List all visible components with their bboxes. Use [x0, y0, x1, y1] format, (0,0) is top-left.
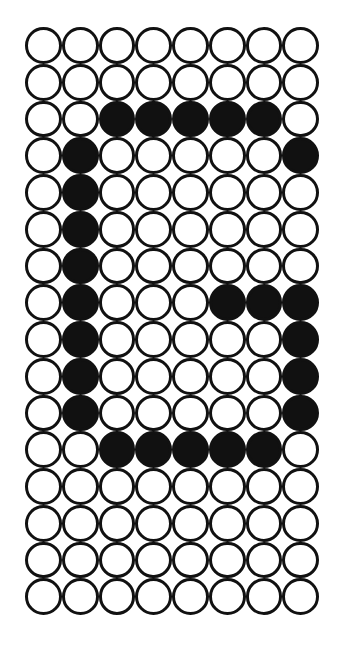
empty-bead[interactable] [62, 431, 99, 468]
filled-bead[interactable] [209, 284, 246, 321]
empty-bead[interactable] [282, 505, 319, 542]
empty-bead[interactable] [282, 64, 319, 101]
empty-bead[interactable] [25, 284, 62, 321]
empty-bead[interactable] [135, 505, 172, 542]
empty-bead[interactable] [135, 542, 172, 579]
empty-bead[interactable] [135, 468, 172, 505]
empty-bead[interactable] [209, 505, 246, 542]
filled-bead[interactable] [135, 101, 172, 138]
empty-bead[interactable] [25, 137, 62, 174]
empty-bead[interactable] [209, 137, 246, 174]
empty-bead[interactable] [25, 505, 62, 542]
empty-bead[interactable] [25, 211, 62, 248]
empty-bead[interactable] [172, 248, 209, 285]
empty-bead[interactable] [172, 395, 209, 432]
empty-bead[interactable] [246, 64, 283, 101]
empty-bead[interactable] [209, 321, 246, 358]
empty-bead[interactable] [172, 284, 209, 321]
filled-bead[interactable] [62, 284, 99, 321]
empty-bead[interactable] [62, 468, 99, 505]
filled-bead[interactable] [62, 174, 99, 211]
empty-bead[interactable] [172, 468, 209, 505]
empty-bead[interactable] [172, 542, 209, 579]
empty-bead[interactable] [282, 211, 319, 248]
empty-bead[interactable] [62, 101, 99, 138]
empty-bead[interactable] [62, 27, 99, 64]
empty-bead[interactable] [135, 27, 172, 64]
filled-bead[interactable] [209, 101, 246, 138]
empty-bead[interactable] [282, 431, 319, 468]
empty-bead[interactable] [282, 468, 319, 505]
empty-bead[interactable] [209, 248, 246, 285]
empty-bead[interactable] [25, 542, 62, 579]
empty-bead[interactable] [172, 578, 209, 615]
empty-bead[interactable] [209, 358, 246, 395]
filled-bead[interactable] [246, 101, 283, 138]
empty-bead[interactable] [135, 211, 172, 248]
filled-bead[interactable] [62, 248, 99, 285]
empty-bead[interactable] [99, 248, 136, 285]
empty-bead[interactable] [282, 578, 319, 615]
empty-bead[interactable] [246, 211, 283, 248]
filled-bead[interactable] [282, 137, 319, 174]
filled-bead[interactable] [99, 431, 136, 468]
empty-bead[interactable] [246, 578, 283, 615]
empty-bead[interactable] [62, 64, 99, 101]
empty-bead[interactable] [135, 358, 172, 395]
empty-bead[interactable] [25, 578, 62, 615]
empty-bead[interactable] [99, 321, 136, 358]
empty-bead[interactable] [99, 542, 136, 579]
empty-bead[interactable] [25, 101, 62, 138]
filled-bead[interactable] [172, 101, 209, 138]
filled-bead[interactable] [62, 211, 99, 248]
empty-bead[interactable] [246, 468, 283, 505]
empty-bead[interactable] [246, 27, 283, 64]
empty-bead[interactable] [99, 395, 136, 432]
empty-bead[interactable] [99, 27, 136, 64]
empty-bead[interactable] [246, 542, 283, 579]
empty-bead[interactable] [135, 395, 172, 432]
filled-bead[interactable] [62, 321, 99, 358]
empty-bead[interactable] [246, 137, 283, 174]
empty-bead[interactable] [25, 431, 62, 468]
empty-bead[interactable] [209, 27, 246, 64]
empty-bead[interactable] [172, 137, 209, 174]
empty-bead[interactable] [135, 137, 172, 174]
filled-bead[interactable] [62, 137, 99, 174]
empty-bead[interactable] [135, 284, 172, 321]
empty-bead[interactable] [25, 358, 62, 395]
empty-bead[interactable] [209, 64, 246, 101]
empty-bead[interactable] [25, 64, 62, 101]
empty-bead[interactable] [25, 248, 62, 285]
empty-bead[interactable] [246, 395, 283, 432]
empty-bead[interactable] [172, 64, 209, 101]
filled-bead[interactable] [135, 431, 172, 468]
empty-bead[interactable] [99, 468, 136, 505]
empty-bead[interactable] [25, 468, 62, 505]
filled-bead[interactable] [246, 431, 283, 468]
empty-bead[interactable] [209, 395, 246, 432]
empty-bead[interactable] [99, 578, 136, 615]
filled-bead[interactable] [282, 358, 319, 395]
empty-bead[interactable] [172, 211, 209, 248]
empty-bead[interactable] [246, 358, 283, 395]
filled-bead[interactable] [246, 284, 283, 321]
empty-bead[interactable] [62, 505, 99, 542]
empty-bead[interactable] [25, 395, 62, 432]
empty-bead[interactable] [209, 174, 246, 211]
empty-bead[interactable] [25, 321, 62, 358]
filled-bead[interactable] [62, 358, 99, 395]
filled-bead[interactable] [62, 395, 99, 432]
empty-bead[interactable] [209, 542, 246, 579]
empty-bead[interactable] [172, 321, 209, 358]
empty-bead[interactable] [172, 27, 209, 64]
empty-bead[interactable] [246, 321, 283, 358]
filled-bead[interactable] [99, 101, 136, 138]
empty-bead[interactable] [99, 174, 136, 211]
empty-bead[interactable] [246, 174, 283, 211]
empty-bead[interactable] [99, 137, 136, 174]
empty-bead[interactable] [282, 27, 319, 64]
empty-bead[interactable] [62, 542, 99, 579]
empty-bead[interactable] [209, 211, 246, 248]
empty-bead[interactable] [209, 468, 246, 505]
